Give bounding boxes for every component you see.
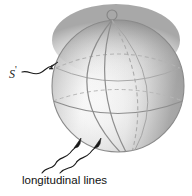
longitudinal-leader-arrow-left — [42, 138, 81, 173]
longitudinal-lines-label: longitudinal lines — [22, 175, 107, 187]
sphere-figure: S' longitudinal lines — [0, 0, 192, 196]
surface-label-s: S' — [9, 65, 17, 80]
sphere-canvas — [0, 0, 192, 196]
surface-label-s-prime: ' — [15, 64, 17, 75]
s-leader-arrow — [22, 62, 58, 74]
